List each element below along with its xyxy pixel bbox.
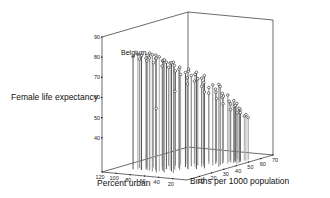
data-point <box>247 116 250 119</box>
data-point <box>212 84 215 87</box>
x-tick-mark <box>172 178 173 179</box>
x-axis-label: Percent urban <box>97 178 150 188</box>
data-point <box>165 61 168 64</box>
data-point <box>145 57 148 60</box>
data-point <box>236 102 239 105</box>
data-point <box>229 108 232 111</box>
data-point <box>155 107 158 110</box>
data-point <box>138 58 141 61</box>
data-point <box>145 60 148 63</box>
z-tick-label: 70 <box>94 74 100 80</box>
y-axis-label: Births per 1000 population <box>190 176 289 186</box>
y-tick-mark <box>223 169 224 170</box>
data-point <box>195 71 198 74</box>
data-point <box>163 59 166 62</box>
z-tick-label: 80 <box>94 54 100 60</box>
x-tick-mark <box>101 171 102 172</box>
top-edge <box>188 12 273 20</box>
y-tick-mark <box>272 154 273 155</box>
data-point <box>218 83 221 86</box>
y-tick-label: 70 <box>272 157 278 163</box>
data-point <box>186 83 189 86</box>
z-tick-label: 40 <box>94 135 100 141</box>
data-point <box>152 61 155 64</box>
data-point <box>158 56 161 59</box>
data-point <box>226 94 229 97</box>
data-point <box>228 100 231 103</box>
data-point <box>196 77 199 80</box>
data-point <box>193 80 196 83</box>
data-point <box>222 95 225 98</box>
data-point <box>215 91 218 94</box>
data-point <box>155 57 158 60</box>
z-tick-mark <box>101 77 102 78</box>
point-annotations: Belgium <box>121 49 146 57</box>
data-point <box>172 61 175 64</box>
data-point <box>148 52 151 55</box>
z-tick-mark <box>101 36 102 37</box>
z-tick-mark <box>101 97 102 98</box>
z-tick-mark <box>101 57 102 58</box>
data-point <box>151 53 154 56</box>
drop-lines <box>133 53 248 173</box>
z-tick-label: 50 <box>94 115 100 121</box>
data-point <box>203 74 206 77</box>
data-point <box>202 81 205 84</box>
data-point <box>178 66 181 69</box>
y-tick-label: 60 <box>260 161 266 167</box>
y-tick-mark <box>260 158 261 159</box>
data-point <box>245 113 248 116</box>
annotation-label: Belgium <box>121 49 146 57</box>
data-point <box>200 85 203 88</box>
x-tick-label: 20 <box>168 181 174 187</box>
data-point <box>184 71 187 74</box>
data-point <box>174 90 177 93</box>
data-point <box>187 68 190 71</box>
data-point <box>203 91 206 94</box>
y-tick-mark <box>211 172 212 173</box>
data-point <box>232 99 235 102</box>
y-tick-label: 50 <box>247 164 253 170</box>
axis-ticks: 4050607080901201008060402010203040506070 <box>94 34 278 187</box>
z-tick-mark <box>101 137 102 138</box>
x-tick-mark <box>130 174 131 175</box>
z-axis-label: Female life expectancy <box>11 92 98 102</box>
data-point <box>236 112 239 115</box>
data-point <box>148 57 151 60</box>
x-tick-mark <box>144 175 145 176</box>
data-point <box>190 74 193 77</box>
z-tick-mark <box>101 117 102 118</box>
x-tick-mark <box>116 173 117 174</box>
data-point <box>207 92 210 95</box>
data-point <box>179 73 182 76</box>
data-point <box>208 86 211 89</box>
data-point <box>215 97 218 100</box>
data-point <box>173 64 176 67</box>
x-tick-label: 40 <box>154 179 160 185</box>
y-tick-label: 40 <box>235 168 241 174</box>
data-point <box>229 103 232 106</box>
data-point <box>222 103 225 106</box>
x-tick-mark <box>158 177 159 178</box>
z-tick-label: 90 <box>94 34 100 40</box>
top-edge <box>102 12 188 37</box>
data-point <box>221 92 224 95</box>
data-point <box>174 70 177 73</box>
data-point <box>200 77 203 80</box>
data-point <box>186 76 189 79</box>
data-point <box>238 107 241 110</box>
y-tick-mark <box>248 162 249 163</box>
data-point <box>161 65 164 68</box>
data-point <box>214 88 217 91</box>
data-point <box>239 111 242 114</box>
y-tick-mark <box>236 165 237 166</box>
data-point <box>167 66 170 69</box>
data-point <box>155 54 158 57</box>
